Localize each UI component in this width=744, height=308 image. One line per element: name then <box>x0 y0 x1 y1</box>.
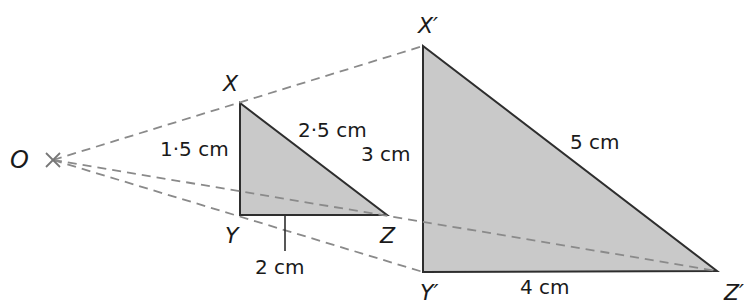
label-vertex-y-prime: Y′ <box>420 282 438 304</box>
label-side-xy: 1·5 cm <box>160 139 229 159</box>
label-vertex-z-prime: Z′ <box>724 282 744 304</box>
label-side-yz: 2 cm <box>255 257 305 277</box>
triangle-x-prime-y-prime-z-prime <box>423 46 717 272</box>
label-centre-o: O <box>10 148 29 172</box>
label-side-xz: 2·5 cm <box>298 120 367 140</box>
label-vertex-x-prime: X′ <box>418 15 438 37</box>
label-vertex-z: Z <box>380 225 395 247</box>
label-vertex-x: X <box>223 73 238 95</box>
label-side-x-prime-z-prime: 5 cm <box>570 132 620 152</box>
label-side-y-prime-z-prime: 4 cm <box>520 277 570 297</box>
label-vertex-y: Y <box>225 225 238 247</box>
label-side-x-prime-y-prime: 3 cm <box>361 144 411 164</box>
